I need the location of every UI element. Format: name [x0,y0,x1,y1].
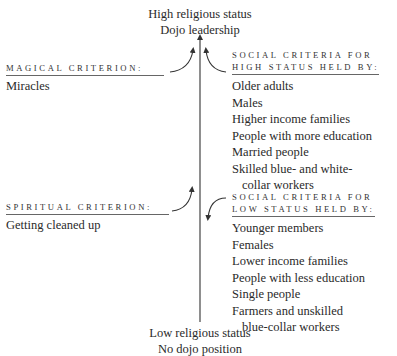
low-status-label: Low religious status No dojo position [100,325,300,356]
high-status-heading-line2: HIGH STATUS HELD BY: [232,61,379,75]
spiritual-arrow-icon [172,189,192,211]
low-status-list: Younger members Females Lower income fam… [232,220,375,336]
list-item: People with more education [232,128,379,145]
list-item: Married people [232,144,379,161]
list-item: Older adults [232,78,379,95]
low-status-heading-line2: LOW STATUS HELD BY: [232,203,375,217]
spiritual-criterion-heading: SPIRITUAL CRITERION: [6,201,169,215]
high-status-criteria-block: SOCIAL CRITERIA FOR HIGH STATUS HELD BY:… [232,49,379,194]
magical-arrow-icon [170,50,193,72]
magical-criterion-heading: MAGICAL CRITERION: [6,62,164,76]
magical-criterion-item: Miracles [6,78,164,95]
high-status-subtitle: Dojo leadership [100,22,300,38]
spiritual-criterion-item: Getting cleaned up [6,217,169,234]
list-item: Males [232,95,379,112]
list-item: Younger members [232,220,375,237]
low-status-criteria-block: SOCIAL CRITERIA FOR LOW STATUS HELD BY: … [232,191,375,336]
list-item: Skilled blue- and white- [232,161,379,178]
high-status-arrow-icon [206,50,226,72]
list-item: Single people [232,286,375,303]
list-item: Farmers and unskilled [232,303,375,320]
high-status-label: High religious status Dojo leadership [100,6,300,38]
list-item: People with less education [232,270,375,287]
spiritual-criterion-block: SPIRITUAL CRITERION: Getting cleaned up [6,201,169,234]
low-status-heading-line1: SOCIAL CRITERIA FOR [232,191,375,203]
list-item: Lower income families [232,253,375,270]
high-status-heading-line1: SOCIAL CRITERIA FOR [232,49,379,61]
high-status-list: Older adults Males Higher income familie… [232,78,379,194]
list-item: Females [232,237,375,254]
magical-criterion-block: MAGICAL CRITERION: Miracles [6,62,164,95]
high-status-title: High religious status [100,6,300,22]
list-item: Higher income families [232,111,379,128]
low-status-subtitle: No dojo position [100,341,300,356]
low-status-title: Low religious status [100,325,300,341]
low-status-arrow-icon [208,198,226,218]
